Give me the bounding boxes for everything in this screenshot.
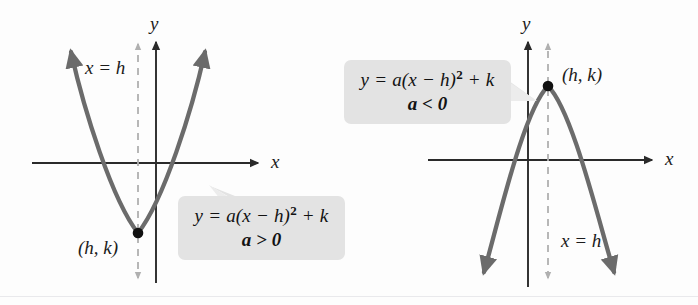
right-vertex-label: (h, k): [562, 65, 602, 84]
left-equation-suffix: + k: [297, 205, 329, 226]
right-condition-text: a < 0: [356, 92, 499, 115]
parabola-vertex-form-figure: y x x = h (h, k) y = a(x − h)2 + k a > 0…: [0, 0, 698, 305]
right-equation-callout: y = a(x − h)2 + k a < 0: [344, 60, 511, 124]
left-condition-text: a > 0: [190, 228, 333, 251]
left-vertex-label: (h, k): [78, 238, 118, 257]
right-axis-of-symmetry-label: x = h: [561, 231, 601, 250]
right-equation-text: y = a(x − h)2 + k: [356, 67, 499, 92]
right-y-axis-label: y: [522, 14, 530, 33]
left-equation-text: y = a(x − h)2 + k: [190, 203, 333, 228]
left-y-axis-label: y: [150, 14, 158, 33]
figure-graphics: [0, 0, 698, 305]
left-x-axis-label: x: [271, 152, 279, 171]
right-equation-exponent: 2: [456, 67, 463, 82]
page-scan-line: [0, 296, 698, 297]
left-vertex-point: [133, 228, 144, 239]
right-vertex-point: [543, 81, 554, 92]
right-x-axis-label: x: [665, 149, 673, 168]
right-equation-suffix: + k: [463, 69, 495, 90]
left-axis-of-symmetry-label: x = h: [85, 58, 125, 77]
left-equation-prefix: y = a(x − h): [195, 205, 291, 226]
right-equation-prefix: y = a(x − h): [361, 69, 457, 90]
left-equation-exponent: 2: [290, 203, 297, 218]
left-equation-callout: y = a(x − h)2 + k a > 0: [178, 196, 345, 260]
